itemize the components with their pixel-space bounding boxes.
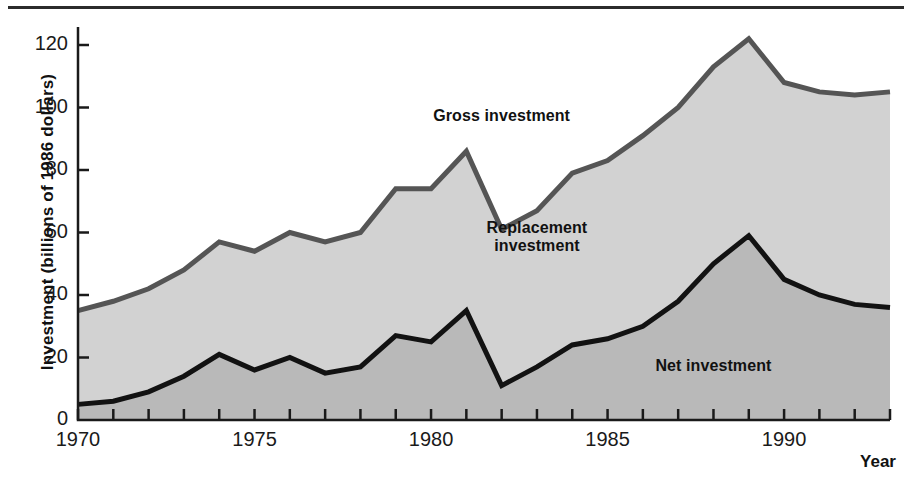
x-tick-label: 1985 (568, 428, 648, 451)
replacement-label-line1: Replacement (487, 219, 588, 236)
y-axis-title: Investment (billions of 1986 dollars) (38, 22, 58, 422)
x-tick-label: 1975 (215, 428, 295, 451)
replacement-investment-label: Replacement investment (447, 219, 627, 255)
x-tick-label: 1990 (744, 428, 824, 451)
chart-figure: 020406080100120 19701975198019851990 Inv… (0, 0, 912, 480)
x-tick-label: 1980 (391, 428, 471, 451)
replacement-label-line2: investment (494, 237, 579, 254)
x-tick-label: 1970 (38, 428, 118, 451)
x-axis-title: Year (860, 452, 896, 472)
net-investment-label: Net investment (628, 357, 798, 375)
gross-investment-label: Gross investment (407, 107, 597, 125)
